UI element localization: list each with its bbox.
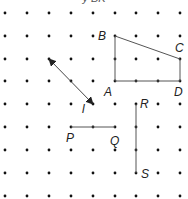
- grid-dot: [179, 35, 182, 38]
- grid-dot: [70, 149, 73, 152]
- grid-dot: [92, 195, 95, 198]
- grid-dot: [48, 12, 51, 15]
- grid-dot: [26, 195, 29, 198]
- grid-dot: [4, 195, 7, 198]
- grid-dot: [48, 172, 51, 175]
- grid-dot: [179, 195, 182, 198]
- label-D: D: [174, 85, 183, 99]
- label-S: S: [141, 167, 149, 181]
- grid-dot: [92, 58, 95, 61]
- grid-dot: [70, 35, 73, 38]
- grid-dot: [114, 103, 117, 106]
- grid-dot: [4, 80, 7, 83]
- grid-dot: [48, 195, 51, 198]
- grid-dot: [70, 12, 73, 15]
- quadrilateral-ABCD: [115, 36, 180, 81]
- grid-dot: [26, 35, 29, 38]
- grid-dot: [157, 195, 160, 198]
- grid-dot: [4, 35, 7, 38]
- grid-dot: [157, 12, 160, 15]
- grid-dot: [26, 58, 29, 61]
- grid-dot: [114, 172, 117, 175]
- grid-dot: [70, 195, 73, 198]
- grid-dot: [157, 149, 160, 152]
- grid-dot: [114, 195, 117, 198]
- grid-dot: [26, 126, 29, 129]
- grid-dot: [157, 126, 160, 129]
- grid-dot: [48, 80, 51, 83]
- grid-dot: [179, 149, 182, 152]
- label-P: P: [66, 131, 74, 145]
- grid-dot: [157, 172, 160, 175]
- line-l-double-arrow: [49, 59, 93, 104]
- grid-dot: [135, 58, 138, 61]
- grid-dot: [179, 103, 182, 106]
- grid-dot: [179, 126, 182, 129]
- grid-dot: [26, 172, 29, 175]
- grid-dot: [26, 80, 29, 83]
- label-C: C: [175, 41, 184, 55]
- grid-dot: [157, 35, 160, 38]
- grid-dot: [48, 126, 51, 129]
- grid-dot: [26, 12, 29, 15]
- grid-dot: [4, 58, 7, 61]
- label-B: B: [98, 29, 106, 43]
- grid-dot: [179, 172, 182, 175]
- grid-dot: [157, 58, 160, 61]
- grid-dot: [135, 195, 138, 198]
- grid-dot: [48, 149, 51, 152]
- grid-dot: [4, 12, 7, 15]
- grid-dot: [92, 149, 95, 152]
- grid-dot: [92, 172, 95, 175]
- grid-dot: [92, 35, 95, 38]
- grid-dot: [70, 172, 73, 175]
- grid-dot: [135, 35, 138, 38]
- grid-dot: [4, 149, 7, 152]
- grid-dot: [4, 103, 7, 106]
- grid-dot: [48, 103, 51, 106]
- label-A: A: [103, 85, 112, 99]
- grid-dot: [26, 149, 29, 152]
- label-Q: Q: [110, 134, 119, 148]
- label-R: R: [140, 97, 149, 111]
- grid-dot: [48, 35, 51, 38]
- grid-dot: [70, 58, 73, 61]
- grid-dots: [4, 12, 182, 198]
- grid-dot: [92, 12, 95, 15]
- grid-dot: [157, 103, 160, 106]
- dot-grid-diagram: B C A D l P Q R S: [0, 0, 188, 199]
- grid-dot: [4, 172, 7, 175]
- grid-dot: [114, 12, 117, 15]
- grid-dot: [114, 149, 117, 152]
- grid-dot: [4, 126, 7, 129]
- grid-dot: [92, 80, 95, 83]
- grid-dot: [135, 12, 138, 15]
- label-l: l: [82, 102, 85, 116]
- grid-dot: [179, 12, 182, 15]
- grid-dot: [70, 103, 73, 106]
- grid-dot: [26, 103, 29, 106]
